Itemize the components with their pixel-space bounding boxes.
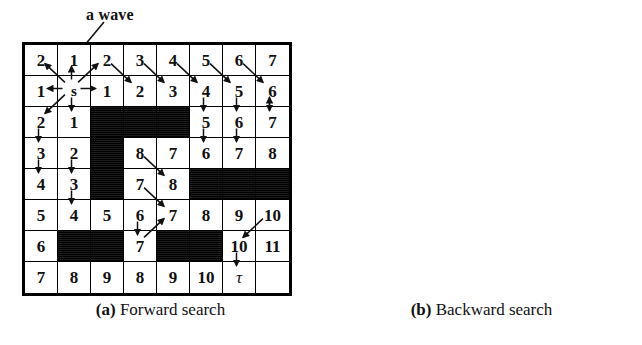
cell-value: 2 [103,52,112,69]
cell-value: 4 [202,83,211,100]
grid-cell: 4 [157,45,190,76]
grid-cell: 7 [25,262,58,293]
grid-cell-obstacle [91,169,124,200]
caption-text-b: Backward search [436,300,553,319]
grid-cell: 3 [157,76,190,107]
panel-forward-search: a wave 212345671s12345621567328767843785… [0,0,321,345]
grid-cell: 7 [223,138,256,169]
grid-cell [256,262,289,293]
grid-cell: 5 [190,45,223,76]
cell-value: 6 [136,207,145,224]
cell-value: 1 [70,114,79,131]
grid-cell: 4 [25,169,58,200]
cell-value: 8 [202,207,211,224]
grid-cell: 3 [25,138,58,169]
cell-value: s [71,84,77,99]
grid-cell-obstacle [91,107,124,138]
grid-cell: 5 [25,200,58,231]
cell-value: τ [236,269,242,286]
grid-cell: 8 [157,169,190,200]
grid-cell: 9 [157,262,190,293]
grid-cell: 10 [223,231,256,262]
cell-value: 3 [37,145,46,162]
grid-cell: 3 [124,45,157,76]
grid-cell: 5 [91,200,124,231]
grid-cell-obstacle [190,169,223,200]
cell-value: 4 [169,52,178,69]
grid-cell: 1 [91,76,124,107]
grid-cell: 5 [190,107,223,138]
cell-value: 7 [268,52,277,69]
grid-cell: 7 [256,107,289,138]
grid-cell: 2 [124,76,157,107]
cell-value: 1 [103,83,112,100]
grid-cell: 8 [124,138,157,169]
grid-cell: 2 [91,45,124,76]
cell-value: 3 [169,83,178,100]
grid-cell: 1 [25,76,58,107]
caption-tag-a: (a) [96,300,116,319]
grid-forward: 212345671s123456215673287678437854567891… [22,42,292,296]
cell-value: 5 [235,83,244,100]
grid-cell: 5 [223,76,256,107]
grid-cell: 6 [25,231,58,262]
cell-value: 7 [169,207,178,224]
cell-value: 10 [198,269,215,286]
cell-value: 7 [235,145,244,162]
grid-cell: 1 [58,107,91,138]
cell-value: 11 [264,238,280,255]
grid-cell: 9 [91,262,124,293]
cell-value: 9 [103,269,112,286]
cell-value: 5 [103,207,112,224]
grid-cell: 11 [256,231,289,262]
grid-cell: 6 [190,138,223,169]
grid-cell: 8 [190,200,223,231]
grid-cell: 8 [58,262,91,293]
cell-value: 2 [37,114,46,131]
cell-value: 7 [136,176,145,193]
caption-text-a: Forward search [120,300,225,319]
cell-value: 6 [268,83,277,100]
grid-cell: 9 [223,200,256,231]
grid-cell-obstacle [256,169,289,200]
grid-cell-start: s [58,76,91,107]
grid-cell: 2 [58,138,91,169]
cell-value: 7 [37,269,46,286]
grid-cell: 8 [256,138,289,169]
cell-value: 8 [136,145,145,162]
grid-cell: 7 [157,138,190,169]
cell-value: 2 [70,145,79,162]
grid-cell-goal: τ [223,262,256,293]
grid-cell-obstacle [157,107,190,138]
cell-value: 7 [169,145,178,162]
grid-cell-obstacle [124,107,157,138]
cell-value: 1 [70,52,79,69]
grid-cells-forward: 212345671s123456215673287678437854567891… [22,42,292,296]
cell-value: 7 [268,114,277,131]
grid-cell: 10 [256,200,289,231]
cell-value: 6 [37,238,46,255]
grid-cell: 8 [124,262,157,293]
cell-value: 9 [169,269,178,286]
cell-value: 6 [202,145,211,162]
cell-value: 8 [268,145,277,162]
grid-cell-obstacle [91,138,124,169]
cell-value: 8 [169,176,178,193]
grid-cell: 2 [25,45,58,76]
grid-cell: 7 [124,169,157,200]
cell-value: 10 [264,207,281,224]
cell-value: 5 [37,207,46,224]
cell-value: 8 [136,269,145,286]
grid-cell: 1 [58,45,91,76]
cell-value: 6 [235,114,244,131]
grid-cell: 7 [124,231,157,262]
cell-value: 10 [231,238,248,255]
grid-cell: 10 [190,262,223,293]
cell-value: 9 [235,207,244,224]
figure-wavefront-search: a wave 212345671s12345621567328767843785… [0,0,642,345]
grid-cell: 6 [223,107,256,138]
grid-cell: 6 [223,45,256,76]
grid-cell-obstacle [190,231,223,262]
cell-value: 4 [37,176,46,193]
cell-value: 8 [70,269,79,286]
